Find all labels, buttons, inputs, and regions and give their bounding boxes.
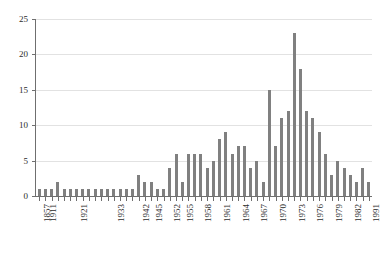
- x-tick-label: 1933: [117, 204, 126, 222]
- x-tick-mark: [176, 196, 177, 201]
- y-tick-label: 25: [19, 14, 28, 24]
- x-tick-mark: [120, 196, 121, 201]
- bar: [243, 146, 246, 196]
- x-tick-mark: [157, 196, 158, 201]
- x-tick-label: 1964: [242, 204, 251, 222]
- x-tick-mark: [188, 196, 189, 201]
- x-tick-label: 1942: [142, 204, 151, 222]
- x-tick-mark: [350, 196, 351, 201]
- y-tick-mark: [32, 161, 36, 162]
- x-tick-label: 1979: [335, 204, 344, 222]
- bar: [81, 189, 84, 196]
- bar: [75, 189, 78, 196]
- x-tick-label: 1991: [372, 204, 381, 222]
- bar: [318, 132, 321, 196]
- x-tick-mark: [164, 196, 165, 201]
- x-tick-mark: [238, 196, 239, 201]
- x-tick-mark: [307, 196, 308, 201]
- x-tick-mark: [369, 196, 370, 201]
- x-tick-mark: [58, 196, 59, 201]
- bar: [262, 182, 265, 196]
- bar: [106, 189, 109, 196]
- bar: [311, 118, 314, 196]
- bar: [231, 154, 234, 196]
- x-tick-mark: [64, 196, 65, 201]
- bar: [100, 189, 103, 196]
- gridline: [36, 161, 372, 162]
- bar: [162, 189, 165, 196]
- bar: [280, 118, 283, 196]
- x-tick-mark: [257, 196, 258, 201]
- y-tick-mark: [32, 90, 36, 91]
- bar: [112, 189, 115, 196]
- bar: [131, 189, 134, 196]
- x-tick-mark: [232, 196, 233, 201]
- x-tick-mark: [300, 196, 301, 201]
- bar: [249, 168, 252, 196]
- x-tick-mark: [269, 196, 270, 201]
- x-tick-mark: [195, 196, 196, 201]
- bar: [268, 90, 271, 196]
- x-tick-label: 1952: [173, 204, 182, 222]
- bar: [343, 168, 346, 196]
- x-tick-label: 1958: [204, 204, 213, 222]
- x-tick-mark: [244, 196, 245, 201]
- bar: [305, 111, 308, 196]
- bar: [150, 182, 153, 196]
- x-tick-mark: [132, 196, 133, 201]
- bar: [330, 175, 333, 196]
- bar: [293, 33, 296, 196]
- x-tick-mark: [83, 196, 84, 201]
- x-tick-mark: [170, 196, 171, 201]
- x-tick-mark: [39, 196, 40, 201]
- bar: [63, 189, 66, 196]
- bar: [181, 182, 184, 196]
- x-tick-mark: [338, 196, 339, 201]
- gridline: [36, 90, 372, 91]
- bar: [299, 69, 302, 196]
- bar: [199, 154, 202, 196]
- bar: [367, 182, 370, 196]
- bar: [274, 146, 277, 196]
- x-tick-mark: [294, 196, 295, 201]
- x-tick-mark: [76, 196, 77, 201]
- x-tick-mark: [145, 196, 146, 201]
- y-tick-label: 15: [19, 85, 28, 95]
- x-tick-mark: [70, 196, 71, 201]
- x-tick-mark: [363, 196, 364, 201]
- gridline: [36, 54, 372, 55]
- bar: [94, 189, 97, 196]
- x-tick-label: 1911: [49, 204, 58, 222]
- x-tick-mark: [319, 196, 320, 201]
- bar: [218, 139, 221, 196]
- gridline: [36, 19, 372, 20]
- x-tick-label: 1961: [223, 204, 232, 222]
- x-tick-mark: [201, 196, 202, 201]
- x-tick-mark: [45, 196, 46, 201]
- y-tick-label: 20: [19, 49, 28, 59]
- x-tick-mark: [139, 196, 140, 201]
- x-tick-label: 1976: [316, 204, 325, 222]
- x-tick-mark: [95, 196, 96, 201]
- plot-area: [36, 19, 372, 196]
- x-tick-label: 1970: [279, 204, 288, 222]
- bar: [187, 154, 190, 196]
- x-tick-label: 1973: [298, 204, 307, 222]
- x-tick-mark: [356, 196, 357, 201]
- x-tick-mark: [332, 196, 333, 201]
- bar: [349, 175, 352, 196]
- y-tick-mark: [32, 19, 36, 20]
- bar: [137, 175, 140, 196]
- bar: [287, 111, 290, 196]
- bar: [355, 182, 358, 196]
- x-tick-mark: [213, 196, 214, 201]
- y-tick-label: 5: [24, 156, 29, 166]
- x-tick-label: 1982: [354, 204, 363, 222]
- x-tick-mark: [325, 196, 326, 201]
- x-tick-mark: [344, 196, 345, 201]
- x-tick-mark: [114, 196, 115, 201]
- x-tick-mark: [151, 196, 152, 201]
- x-tick-label: 1921: [80, 204, 89, 222]
- bar: [324, 154, 327, 196]
- x-tick-label: 1945: [155, 204, 164, 222]
